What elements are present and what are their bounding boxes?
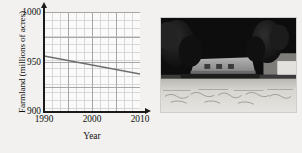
- x-axis-label: Year: [44, 131, 140, 141]
- y-axis-line: [43, 6, 44, 112]
- x-tick-labels: 1990 2000 2010: [0, 114, 152, 128]
- plot-area: [44, 12, 140, 112]
- farmland-line-chart: Farmland (millions of acres) 1000 950 90…: [0, 0, 152, 153]
- y-tick-labels: 1000 950 900: [0, 0, 41, 153]
- farm-photograph: [160, 17, 297, 113]
- farm-photo-block: [160, 17, 297, 113]
- x-tick-label: 2000: [74, 114, 110, 124]
- x-tick-label: 1990: [26, 114, 62, 124]
- farmland-data-line: [44, 12, 140, 112]
- y-tick-label: 950: [27, 57, 41, 67]
- farmland-figure: Farmland (millions of acres) 1000 950 90…: [0, 0, 302, 153]
- y-tick-label: 1000: [22, 7, 41, 17]
- x-tick-label: 2010: [122, 114, 158, 124]
- y-axis-arrow-icon: [41, 2, 47, 8]
- farm-scene-graphic: [161, 18, 296, 112]
- x-axis-line: [43, 111, 146, 112]
